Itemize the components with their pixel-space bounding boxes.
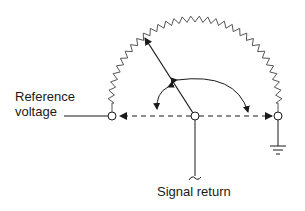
- resistor-arc: [108, 16, 282, 112]
- left-terminal: [108, 112, 116, 120]
- signal-return-lead: [189, 120, 201, 180]
- angle-arc-small: [157, 87, 168, 109]
- reference-voltage-label: Reference voltage: [15, 89, 75, 119]
- angle-arc-large: [177, 79, 248, 112]
- right-terminal: [274, 112, 282, 120]
- center-pivot: [191, 112, 199, 120]
- signal-return-label: Signal return: [157, 184, 231, 199]
- reference-label-line1: Reference: [15, 89, 75, 104]
- wiper-arrow: [145, 38, 193, 113]
- reference-label-line2: voltage: [15, 104, 75, 119]
- ground-icon: [270, 120, 286, 154]
